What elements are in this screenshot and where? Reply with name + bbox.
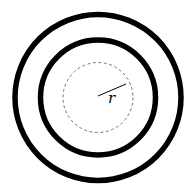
inner-circle [41,40,156,155]
radius-label: r [108,89,116,107]
concentric-circles-diagram: r [0,0,187,192]
dashed-circle [63,63,133,133]
